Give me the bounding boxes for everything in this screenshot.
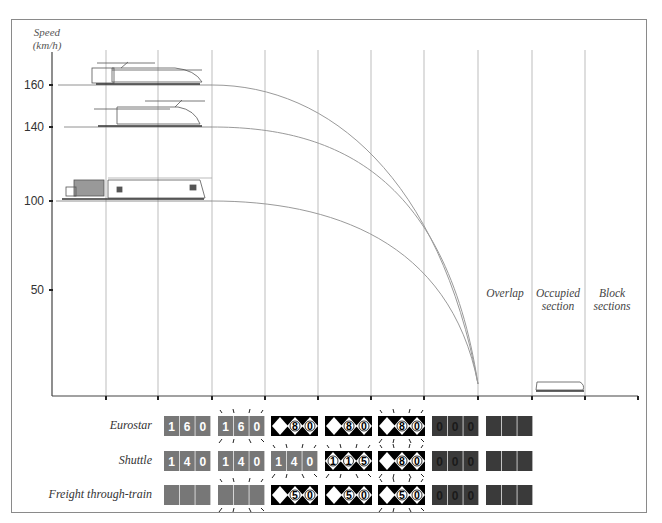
row-label-shuttle: Shuttle [119, 453, 152, 468]
signal-panel [158, 477, 217, 513]
svg-text:0: 0 [200, 455, 207, 469]
row-label-eurostar: Eurostar [110, 418, 152, 433]
eurostar-braking-curve [212, 85, 478, 384]
svg-text:6: 6 [184, 420, 191, 434]
signal-panel [480, 408, 539, 444]
signal-panel: 50 [319, 477, 378, 513]
svg-text:1: 1 [168, 420, 175, 434]
occupied-line1: Occupied [531, 287, 585, 300]
signal-panel: 140 [158, 443, 217, 479]
signal-panel: 000 [426, 443, 485, 479]
block-sections-label: Block sections [585, 287, 639, 313]
svg-text:4: 4 [184, 455, 191, 469]
svg-text:0: 0 [468, 489, 475, 503]
svg-text:0: 0 [361, 489, 367, 501]
axes [52, 52, 638, 396]
svg-text:8: 8 [399, 455, 405, 467]
svg-text:4: 4 [238, 455, 245, 469]
svg-text:0: 0 [414, 489, 420, 501]
signal-panel: 140 [212, 443, 271, 479]
signal-panel [212, 477, 271, 513]
block-line2: sections [585, 300, 639, 313]
svg-text:0: 0 [200, 420, 207, 434]
svg-text:0: 0 [468, 455, 475, 469]
signal-panel: 80 [265, 408, 324, 444]
svg-text:5: 5 [292, 489, 298, 501]
svg-text:0: 0 [436, 489, 443, 503]
freight-train-icon [62, 178, 212, 199]
occupied-train-icon [536, 382, 584, 391]
svg-text:0: 0 [254, 455, 261, 469]
signal-panel: 80 [372, 443, 431, 479]
signal-panel: 160 [212, 408, 271, 444]
block-line1: Block [585, 287, 639, 300]
svg-text:0: 0 [468, 420, 475, 434]
svg-text:0: 0 [254, 420, 261, 434]
svg-text:1: 1 [222, 455, 229, 469]
signal-panel: 80 [372, 408, 431, 444]
signal-panel: 50 [372, 477, 431, 513]
svg-text:0: 0 [436, 420, 443, 434]
svg-text:8: 8 [399, 420, 405, 432]
svg-text:5: 5 [346, 489, 352, 501]
svg-text:0: 0 [414, 455, 420, 467]
svg-text:0: 0 [307, 489, 313, 501]
occupied-line2: section [531, 300, 585, 313]
svg-text:4: 4 [291, 455, 298, 469]
svg-text:0: 0 [436, 455, 443, 469]
svg-text:6: 6 [238, 420, 245, 434]
signal-panel: 160 [158, 408, 217, 444]
overlap-label: Overlap [478, 287, 532, 300]
svg-text:0: 0 [307, 420, 313, 432]
svg-text:1: 1 [346, 455, 352, 467]
signal-panel: 000 [426, 408, 485, 444]
svg-text:0: 0 [414, 420, 420, 432]
svg-text:0: 0 [452, 420, 459, 434]
svg-text:0: 0 [307, 455, 314, 469]
freight-braking-curve [212, 201, 478, 384]
overlap-label-text: Overlap [478, 287, 532, 300]
svg-text:1: 1 [168, 455, 175, 469]
signal-panel: 50 [265, 477, 324, 513]
svg-text:1: 1 [222, 420, 229, 434]
braking-curves [212, 85, 478, 384]
signal-panel: 80 [319, 408, 378, 444]
signal-panel: 115 [319, 443, 378, 479]
shuttle-train-icon [94, 100, 205, 126]
svg-text:5: 5 [399, 489, 405, 501]
signal-panel: 140 [265, 443, 324, 479]
svg-text:8: 8 [292, 420, 298, 432]
svg-text:0: 0 [452, 455, 459, 469]
eurostar-train-icon [92, 62, 202, 84]
signal-panel [480, 477, 539, 513]
row-label-freight: Freight through-train [49, 487, 152, 502]
svg-text:8: 8 [346, 420, 352, 432]
shuttle-braking-curve [212, 127, 478, 384]
svg-text:5: 5 [361, 455, 367, 467]
occupied-section-label: Occupied section [531, 287, 585, 313]
svg-text:1: 1 [330, 455, 336, 467]
svg-text:0: 0 [452, 489, 459, 503]
svg-text:1: 1 [275, 455, 282, 469]
signal-panel: 000 [426, 477, 485, 513]
signal-panel [480, 443, 539, 479]
svg-text:0: 0 [361, 420, 367, 432]
